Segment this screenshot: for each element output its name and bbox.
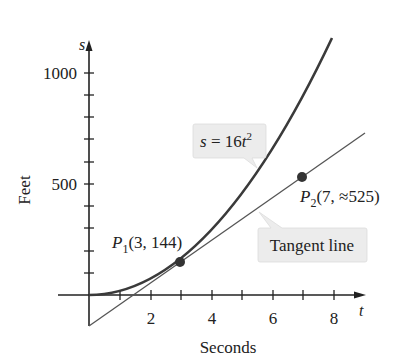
x-axis-var: t bbox=[359, 302, 364, 319]
p1-label: P1(3, 144) bbox=[111, 233, 182, 256]
x-tick-8: 8 bbox=[330, 309, 339, 328]
chart: 1000 500 2 4 6 8 s t Feet Seconds s = 16… bbox=[0, 0, 395, 364]
p2-label: P2(7, ≈525) bbox=[299, 187, 380, 210]
point-p1 bbox=[175, 257, 185, 267]
y-axis-var: s bbox=[79, 36, 85, 53]
x-axis-title: Seconds bbox=[200, 338, 257, 357]
tangent-label: Tangent line bbox=[258, 212, 367, 262]
y-tick-500: 500 bbox=[52, 175, 78, 194]
y-axis-title: Feet bbox=[15, 175, 34, 205]
x-tick-6: 6 bbox=[269, 309, 278, 328]
svg-text:s = 16t2: s = 16t2 bbox=[200, 130, 252, 151]
y-axis bbox=[84, 40, 94, 326]
curve-label-text: = 16 bbox=[207, 132, 242, 151]
x-tick-4: 4 bbox=[208, 309, 217, 328]
y-tick-1000: 1000 bbox=[43, 64, 77, 83]
x-axis-arrow-icon bbox=[354, 292, 366, 299]
y-axis-arrow-icon bbox=[86, 40, 93, 51]
tangent-label-text: Tangent line bbox=[270, 236, 354, 255]
curve-label: s = 16t2 bbox=[193, 124, 266, 168]
x-tick-2: 2 bbox=[147, 309, 156, 328]
point-p2 bbox=[297, 172, 307, 182]
